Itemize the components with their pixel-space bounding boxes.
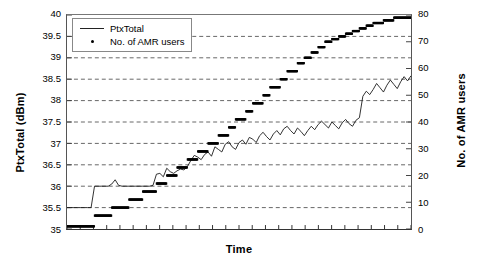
dot-marker-icon (78, 40, 106, 43)
y-axis-ticks-right: 01020304050607080 (418, 0, 450, 265)
y-tick-label-right: 10 (418, 198, 448, 208)
y-tick-label-left: 36 (29, 182, 61, 192)
y-tick-label-right: 80 (418, 9, 448, 19)
chart-figure: PtxTotal (dBm) No. of AMR users Time 353… (0, 0, 483, 265)
y-tick-label-right: 70 (418, 36, 448, 46)
y-tick-label-left: 38 (29, 95, 61, 105)
legend-label-amr-users: No. of AMR users (110, 35, 184, 48)
line-marker-icon (78, 28, 106, 29)
y-tick-label-left: 37 (29, 139, 61, 149)
y-tick-label-right: 0 (418, 225, 448, 235)
y-tick-label-left: 39 (29, 52, 61, 62)
y-tick-label-right: 50 (418, 90, 448, 100)
y-axis-label-right: No. of AMR users (455, 0, 473, 243)
y-axis-ticks-left: 3535.53636.53737.53838.53939.540 (28, 0, 61, 265)
y-tick-label-right: 20 (418, 171, 448, 181)
chart-legend: PtxTotal No. of AMR users (72, 18, 192, 52)
legend-label-ptxtotal: PtxTotal (110, 22, 144, 35)
y-tick-label-left: 36.5 (29, 160, 61, 170)
y-tick-label-left: 39.5 (29, 31, 61, 41)
legend-item-amr-users: No. of AMR users (78, 35, 184, 48)
x-axis-label: Time (66, 243, 412, 255)
y-tick-label-right: 30 (418, 144, 448, 154)
y-tick-label-left: 37.5 (29, 117, 61, 127)
y-tick-label-left: 35.5 (29, 203, 61, 213)
y-tick-label-right: 40 (418, 117, 448, 127)
y-tick-label-right: 60 (418, 63, 448, 73)
y-tick-label-left: 35 (29, 225, 61, 235)
legend-item-ptxtotal: PtxTotal (78, 22, 184, 35)
y-tick-label-left: 38.5 (29, 74, 61, 84)
y-tick-label-left: 40 (29, 9, 61, 19)
